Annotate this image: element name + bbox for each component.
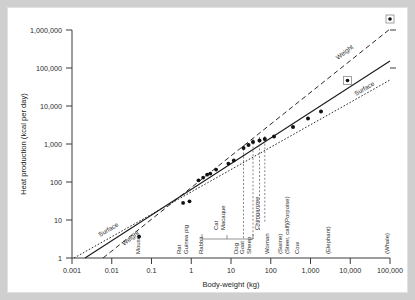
data-point (242, 146, 246, 150)
animal-label-woman: Woman (264, 233, 270, 254)
y-tick-group (66, 30, 72, 258)
document-page: 1,000,000 100,000 10,000 1,000 100 10 1 (8, 8, 407, 292)
x-tick-label: 100 (265, 266, 277, 275)
x-tick-label: 1 (189, 266, 193, 275)
animal-label-group: Mouse Rat Guinea pig Rabbit Cat Macaque … (135, 196, 391, 254)
data-point (272, 135, 276, 139)
x-tick-label: 0.001 (63, 266, 81, 275)
data-point (306, 117, 310, 121)
y-tick-label: 10 (54, 216, 62, 225)
animal-label-cow: Cow (294, 241, 300, 254)
surface-line-label-lower: Surface (97, 220, 120, 238)
data-point (251, 140, 255, 144)
data-point (258, 139, 262, 143)
data-point (247, 143, 251, 147)
x-tick-label: 0.01 (105, 266, 119, 275)
animal-label-cat: Cat (213, 220, 219, 230)
data-point (188, 199, 192, 203)
y-tick-label: 10,000 (40, 102, 62, 111)
animal-label-guinea-pig: Guinea pig (183, 225, 189, 254)
animal-label-rat: Rat (176, 244, 182, 254)
animal-label-steer-calf: (Steer, calf) (284, 223, 290, 254)
animal-label-chimpanzee: Chimpanzee (254, 196, 260, 230)
y-tick-label: 1,000 (44, 140, 62, 149)
data-point (263, 137, 267, 141)
metabolic-scaling-figure: 1,000,000 100,000 10,000 1,000 100 10 1 (8, 8, 407, 292)
data-point (181, 201, 185, 205)
y-tick-label: 100 (50, 178, 62, 187)
x-tick-label: 100,000 (377, 266, 403, 275)
y-tick-group-right (390, 30, 396, 68)
chart-svg: 1,000,000 100,000 10,000 1,000 100 10 1 (8, 8, 407, 292)
screenshot-canvas: 1,000,000 100,000 10,000 1,000 100 10 1 (0, 0, 415, 300)
y-axis-title: Heat production (kcal per day) (19, 93, 28, 195)
x-tick-label: 0.1 (147, 266, 157, 275)
surface-reference-line (74, 80, 390, 258)
y-tick-label: 1 (58, 254, 62, 263)
animal-label-sheep: Sheep (246, 236, 252, 254)
animal-label-macaque: Macaque (220, 205, 226, 230)
animal-label-rabbit: Rabbit (198, 236, 204, 254)
data-point (291, 125, 295, 129)
animal-label-dog: Dog (233, 243, 239, 254)
data-point (232, 159, 236, 163)
data-point (197, 178, 201, 182)
animal-label-elephant: (Elephant) (325, 226, 331, 254)
weight-reference-line (103, 29, 390, 258)
x-axis-title: Body-weight (kg) (203, 280, 260, 289)
x-tick-group (72, 258, 390, 264)
y-tick-label: 1,000,000 (30, 26, 62, 35)
data-point-group (137, 110, 323, 239)
animal-label-mouse: Mouse (135, 235, 141, 254)
y-tick-label: 100,000 (36, 64, 62, 73)
fitted-regression-line (85, 61, 390, 258)
data-point (208, 172, 212, 176)
animal-label-porpoise: (Porpoise) (284, 196, 290, 224)
data-point (201, 176, 205, 180)
data-point (227, 162, 231, 166)
x-tick-label: 10,000 (339, 266, 361, 275)
data-point (319, 110, 323, 114)
animal-label-goat: Goat (239, 241, 245, 254)
data-point (214, 168, 218, 172)
animal-label-swine: (Swine) (277, 234, 283, 254)
animal-label-whale: (Whale) (384, 233, 390, 254)
x-tick-label: 10 (227, 266, 235, 275)
weight-line-label-upper: Weight (334, 43, 355, 62)
x-tick-label: 1,000 (302, 266, 320, 275)
